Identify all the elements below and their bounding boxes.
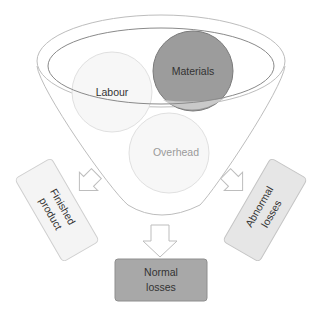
funnel-diagram: Labour Materials Overhead Finished produ… <box>0 0 317 313</box>
materials-label: Materials <box>172 65 215 77</box>
normal-losses-box: Normal losses <box>115 259 207 301</box>
normal-losses-label-1: Normal <box>144 266 178 278</box>
labour-label: Labour <box>96 86 129 98</box>
overhead-label: Overhead <box>153 146 199 158</box>
arrow-down-icon <box>143 225 177 257</box>
normal-losses-label-2: losses <box>146 281 176 293</box>
